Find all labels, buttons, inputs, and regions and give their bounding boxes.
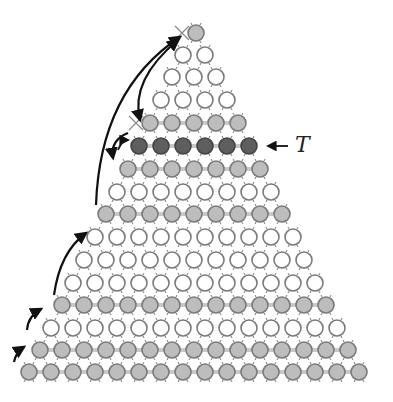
lattice-site [285, 227, 301, 247]
lattice-site [98, 250, 114, 270]
lattice-site [252, 250, 268, 270]
lattice-site [153, 90, 169, 110]
lattice-site [318, 295, 334, 315]
lattice-site [65, 273, 81, 293]
lattice-site [197, 273, 213, 293]
lattice-site [197, 90, 213, 110]
lattice-site [142, 204, 158, 224]
lattice-site [142, 340, 158, 360]
lattice-site [142, 113, 158, 133]
arrow-small-2-icon [27, 309, 41, 330]
lattice-site [285, 318, 301, 338]
lattice-site [186, 295, 202, 315]
lattice-site [131, 318, 147, 338]
lattice-site [65, 318, 81, 338]
lattice-site [164, 113, 180, 133]
lattice-site [307, 273, 323, 293]
lattice-site [197, 227, 213, 247]
lattice-site [109, 318, 125, 338]
lattice-site [241, 227, 257, 247]
lattice-site [153, 136, 169, 156]
lattice-site [285, 362, 301, 382]
lattice-site [164, 204, 180, 224]
lattice-site [307, 318, 323, 338]
lattice-site [230, 204, 246, 224]
lattice-site [120, 295, 136, 315]
lattice-site [186, 204, 202, 224]
lattice-site [32, 340, 48, 360]
lattice-site [263, 273, 279, 293]
lattice-site [153, 273, 169, 293]
lattice-site [164, 340, 180, 360]
lattice-site [54, 295, 70, 315]
lattice-site [175, 227, 191, 247]
row-label-t: T [295, 132, 310, 157]
lattice-site [120, 250, 136, 270]
lattice-site [241, 136, 257, 156]
lattice-site [109, 362, 125, 382]
lattice-site [175, 45, 191, 65]
arrow-small-1-icon [14, 347, 24, 362]
lattice-site [296, 340, 312, 360]
lattice-site [219, 273, 235, 293]
lattice-site [318, 340, 334, 360]
lattice-site [219, 90, 235, 110]
lattice-site [263, 182, 279, 202]
lattice-site [230, 113, 246, 133]
lattice-site [188, 23, 204, 43]
lattice-site [142, 159, 158, 179]
lattice-site [263, 362, 279, 382]
lattice-site [208, 340, 224, 360]
lattice-site [329, 362, 345, 382]
lattice-site [131, 227, 147, 247]
lattice-site [241, 273, 257, 293]
lattice-site [263, 227, 279, 247]
lattice-site [186, 159, 202, 179]
lattice-site [274, 295, 290, 315]
lattice-site [153, 182, 169, 202]
lattice-site [164, 159, 180, 179]
lattice-site [175, 182, 191, 202]
lattice-site [274, 204, 290, 224]
lattice-site [87, 362, 103, 382]
lattice-site [241, 362, 257, 382]
lattice-site [208, 67, 224, 87]
lattice-site [76, 340, 92, 360]
lattice-site [252, 204, 268, 224]
lattice-site [120, 159, 136, 179]
lattice-site [175, 273, 191, 293]
lattice-site [120, 204, 136, 224]
lattice-site [351, 362, 367, 382]
lattice-site [131, 362, 147, 382]
lattice-site [274, 250, 290, 270]
lattice-site [208, 295, 224, 315]
lattice-site [153, 318, 169, 338]
lattice-site [186, 250, 202, 270]
lattice-site [175, 136, 191, 156]
lattice-site [142, 250, 158, 270]
lattice-site [252, 340, 268, 360]
lattice-site [208, 159, 224, 179]
lattice-site [131, 182, 147, 202]
lattice-site [175, 362, 191, 382]
lattice-site [329, 318, 345, 338]
lattice-site [43, 318, 59, 338]
lattice-site [164, 295, 180, 315]
lattice-site [142, 295, 158, 315]
lattice-site [175, 318, 191, 338]
lattice-site [98, 204, 114, 224]
lattice-site [153, 227, 169, 247]
lattice-site [109, 227, 125, 247]
lattice-site [296, 295, 312, 315]
triangle-lattice-diagram: T [0, 0, 393, 402]
lattice-site [230, 250, 246, 270]
lattice-site [197, 362, 213, 382]
lattice-site [120, 340, 136, 360]
lattice-site [241, 318, 257, 338]
arrow-curl-return-icon [118, 140, 128, 150]
removed-site-cross-icon [129, 116, 143, 130]
lattice-site [87, 227, 103, 247]
lattice-site [219, 362, 235, 382]
lattice-site [186, 113, 202, 133]
lattice-site [164, 250, 180, 270]
